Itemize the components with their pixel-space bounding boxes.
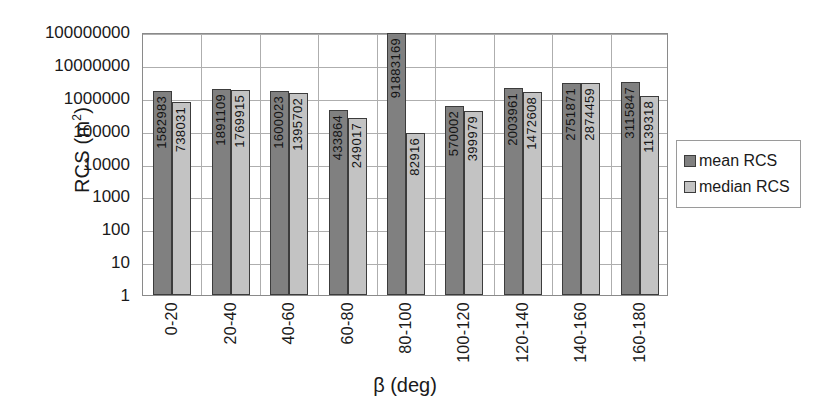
data-label-mean-160-180: 3115847 xyxy=(623,87,636,139)
gridline-vertical xyxy=(377,34,378,295)
y-axis-tick-label: 10 xyxy=(111,253,130,273)
y-axis-tick-label: 100000 xyxy=(73,122,130,142)
legend-item-mean-rcs[interactable]: mean RCS xyxy=(684,148,790,174)
y-axis-tick-label: 10000 xyxy=(83,155,130,175)
y-axis-tick-label: 100000000 xyxy=(45,23,130,43)
plot-area: 1582983738031189110917699151600023139570… xyxy=(142,33,668,296)
data-label-median-100-120: 399979 xyxy=(466,116,479,161)
gridline-vertical xyxy=(201,34,202,295)
data-label-median-60-80: 249017 xyxy=(350,123,363,168)
x-axis-title: β (deg) xyxy=(142,374,668,397)
legend-swatch-median-icon xyxy=(684,181,696,193)
x-axis-tick-labels: 0-2020-4040-6060-8080-100100-120120-1401… xyxy=(142,300,668,370)
data-label-mean-120-140: 2003961 xyxy=(506,93,519,146)
data-label-median-160-180: 1139318 xyxy=(642,101,655,153)
data-label-mean-60-80: 433864 xyxy=(331,115,344,160)
gridline-vertical xyxy=(494,34,495,295)
legend-label-median: median RCS xyxy=(699,178,790,196)
legend-item-median-rcs[interactable]: median RCS xyxy=(684,174,790,200)
x-axis-tick-label-100-120: 100-120 xyxy=(455,302,473,363)
data-label-median-20-40: 1769915 xyxy=(233,95,246,148)
y-axis-tick-label: 1000 xyxy=(92,187,130,207)
y-axis-tick-label: 10000000 xyxy=(54,56,130,76)
data-label-mean-40-60: 1600023 xyxy=(272,96,285,149)
x-axis-tick-label-120-140: 120-140 xyxy=(514,302,532,363)
data-label-mean-0-20: 1582983 xyxy=(155,96,168,149)
data-label-median-40-60: 1395702 xyxy=(291,98,304,151)
gridline-vertical xyxy=(611,34,612,295)
gridline-vertical xyxy=(318,34,319,295)
x-axis-tick-label-80-100: 80-100 xyxy=(397,302,415,354)
data-label-median-0-20: 738031 xyxy=(174,107,187,152)
y-axis-tick-label: 1000000 xyxy=(64,89,130,109)
data-label-mean-20-40: 1891109 xyxy=(214,94,227,146)
data-label-median-80-100: 82916 xyxy=(408,138,421,176)
data-label-median-140-160: 2874459 xyxy=(583,88,596,141)
chart-legend: mean RCS median RCS xyxy=(676,140,801,208)
y-axis-tick-labels: 1101001000100001000001000000100000001000… xyxy=(18,33,136,296)
x-axis-tick-label-20-40: 20-40 xyxy=(222,302,240,344)
gridline-vertical xyxy=(552,34,553,295)
data-label-mean-100-120: 570002 xyxy=(447,111,460,156)
x-axis-tick-label-160-180: 160-180 xyxy=(631,302,649,363)
bar-chart: RCS (m2) 1101001000100001000001000000100… xyxy=(0,0,838,409)
x-axis-tick-label-60-80: 60-80 xyxy=(339,302,357,344)
x-axis-tick-label-0-20: 0-20 xyxy=(163,302,181,335)
y-axis-tick-label: 100 xyxy=(102,220,130,240)
x-axis-tick-label-40-60: 40-60 xyxy=(280,302,298,344)
data-label-median-120-140: 1472608 xyxy=(525,97,538,150)
y-axis-tick-label: 1 xyxy=(121,286,130,306)
gridline-vertical xyxy=(435,34,436,295)
legend-swatch-mean-icon xyxy=(684,155,696,167)
data-label-mean-80-100: 91883169 xyxy=(389,38,402,98)
legend-label-mean: mean RCS xyxy=(699,152,777,170)
gridline-vertical xyxy=(260,34,261,295)
x-axis-tick-label-140-160: 140-160 xyxy=(572,302,590,363)
data-label-mean-140-160: 2751871 xyxy=(564,88,577,141)
